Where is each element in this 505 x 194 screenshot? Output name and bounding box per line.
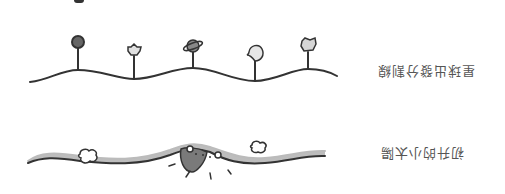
crescent-moon-icon [247,45,263,61]
planet-circle-icon [72,36,84,48]
planet-divider [30,36,337,82]
star-icon [128,44,141,55]
cloud-icon [251,141,267,152]
star-icon [301,38,316,51]
divider-illustrations [0,0,505,194]
rising-sun-divider [28,141,325,179]
rising-sun-divider-label: 初升的小太陽 [380,145,464,164]
saturn-icon [183,40,204,52]
planet-divider-label: 星球出發分割線 [377,63,475,82]
cloud-icon [79,149,97,163]
